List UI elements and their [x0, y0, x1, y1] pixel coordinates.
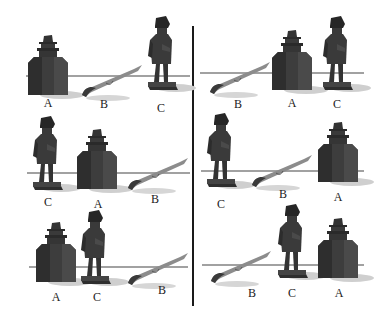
figure-drawing — [0, 0, 388, 324]
label-bottom-left-c: C — [93, 291, 101, 303]
figure-canvas: A B C B A C C A B C B A A C B B C A — [0, 0, 388, 324]
label-bottom-right-b: B — [248, 287, 256, 299]
label-top-left-a: A — [44, 97, 53, 109]
label-middle-left-b: B — [151, 193, 159, 205]
label-bottom-left-a: A — [52, 291, 61, 303]
panel-top-right — [200, 16, 371, 98]
label-middle-right-c: C — [217, 198, 225, 210]
panel-middle-right — [201, 113, 374, 191]
label-middle-right-b: B — [279, 188, 287, 200]
label-bottom-right-a: A — [335, 287, 344, 299]
panel-middle-left — [27, 116, 190, 194]
label-top-left-b: B — [100, 98, 108, 110]
panel-bottom-left — [29, 210, 188, 289]
label-middle-left-c: C — [44, 196, 52, 208]
label-top-left-c: C — [157, 102, 165, 114]
label-top-right-a: A — [288, 97, 297, 109]
label-middle-left-a: A — [94, 198, 103, 210]
label-bottom-left-b: B — [158, 284, 166, 296]
panel-top-left — [26, 16, 196, 101]
label-top-right-c: C — [333, 98, 341, 110]
label-middle-right-a: A — [334, 191, 343, 203]
label-bottom-right-c: C — [288, 287, 296, 299]
panel-bottom-right — [202, 204, 374, 287]
label-top-right-b: B — [234, 98, 242, 110]
